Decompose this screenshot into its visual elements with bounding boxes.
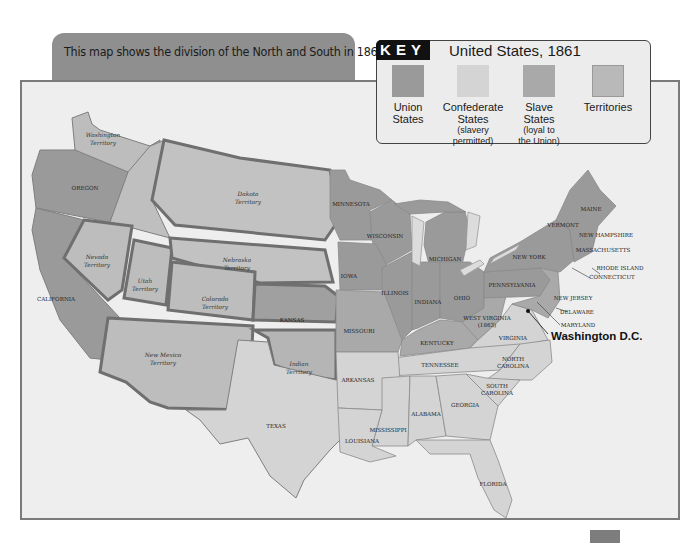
label-north-carolina: NORTH bbox=[502, 356, 524, 362]
label-louisiana: LOUISIANA bbox=[345, 438, 380, 444]
label-colorado-territory: Colorado bbox=[202, 296, 229, 302]
label-massachusetts: MASSACHUSETTS bbox=[576, 247, 631, 253]
label-new-hampshire: NEW HAMPSHIRE bbox=[579, 232, 633, 238]
label-michigan: MICHIGAN bbox=[429, 256, 462, 262]
svg-text:Territory: Territory bbox=[235, 199, 262, 206]
svg-text:Territory: Territory bbox=[224, 265, 251, 272]
key-item-slave-loyal: Slave States (loyal to the Union) bbox=[511, 65, 567, 147]
map-key: KEY United States, 1861 Union States Con… bbox=[376, 40, 651, 144]
svg-text:Territory: Territory bbox=[286, 369, 313, 376]
label-texas: TEXAS bbox=[266, 423, 286, 429]
label-tennessee: TENNESSEE bbox=[421, 362, 458, 368]
label-rhode-island: RHODE ISLAND bbox=[596, 265, 644, 271]
label-washington-territory: Washington bbox=[86, 132, 121, 139]
label-nebraska-territory: Nebraska bbox=[222, 257, 252, 263]
key-item-confederate: Confederate States (slavery permitted) bbox=[437, 65, 509, 147]
label-maryland: MARYLAND bbox=[561, 322, 596, 328]
label-utah-territory: Utah bbox=[138, 278, 153, 284]
union-swatch bbox=[392, 65, 424, 97]
great-lakes bbox=[412, 216, 424, 266]
label-wisconsin: WISCONSIN bbox=[367, 233, 404, 239]
label-new-york: NEW YORK bbox=[512, 254, 546, 260]
label-florida: FLORIDA bbox=[479, 481, 507, 487]
label-dakota-territory: Dakota bbox=[237, 191, 259, 197]
key-item-territories: Territories bbox=[573, 65, 643, 113]
label-washington-dc: Washington D.C. bbox=[551, 330, 643, 342]
label-kansas: KANSAS bbox=[280, 317, 305, 323]
label-iowa: IOWA bbox=[341, 273, 358, 279]
svg-text:Territory: Territory bbox=[132, 286, 159, 293]
confederate-swatch bbox=[457, 65, 489, 97]
svg-text:Territory: Territory bbox=[202, 304, 229, 311]
svg-text:Territory: Territory bbox=[90, 140, 117, 147]
label-illinois: ILLINOIS bbox=[381, 290, 409, 296]
label-mississippi: MISSISSIPPI bbox=[369, 427, 406, 433]
label-connecticut: CONNECTICUT bbox=[589, 274, 635, 280]
svg-text:CAROLINA: CAROLINA bbox=[481, 390, 514, 396]
svg-text:(1863): (1863) bbox=[478, 322, 497, 328]
label-delaware: DELAWARE bbox=[560, 309, 594, 315]
territories-swatch bbox=[592, 65, 624, 97]
west-region bbox=[32, 112, 350, 498]
svg-text:Territory: Territory bbox=[150, 360, 177, 367]
label-virginia: VIRGINIA bbox=[498, 335, 528, 341]
dakota-territory bbox=[152, 140, 340, 240]
slave-loyal-swatch bbox=[523, 65, 555, 97]
label-oregon: OREGON bbox=[72, 185, 99, 191]
label-vermont: VERMONT bbox=[546, 222, 579, 228]
label-california: CALIFORNIA bbox=[37, 296, 76, 302]
label-missouri: MISSOURI bbox=[343, 328, 374, 334]
label-kentucky: KENTUCKY bbox=[420, 340, 454, 346]
label-new-jersey: NEW JERSEY bbox=[554, 295, 593, 302]
label-alabama: ALABAMA bbox=[410, 411, 442, 417]
label-nevada-territory: Nevada bbox=[85, 254, 109, 260]
florida-state bbox=[416, 440, 512, 518]
key-item-union: Union States bbox=[384, 65, 432, 125]
label-west-virginia: WEST VIRGINIA bbox=[463, 315, 511, 321]
key-title: United States, 1861 bbox=[449, 42, 581, 59]
label-maine: MAINE bbox=[581, 206, 602, 212]
label-georgia: GEORGIA bbox=[451, 402, 480, 408]
label-minnesota: MINNESOTA bbox=[332, 201, 371, 207]
label-indian-territory: Indian bbox=[289, 361, 309, 367]
page-tab bbox=[590, 530, 620, 543]
label-ohio: OHIO bbox=[454, 295, 471, 301]
label-new-mexico-territory: New Mexico bbox=[144, 352, 182, 358]
label-arkansas: ARKANSAS bbox=[341, 377, 375, 383]
label-south-carolina: SOUTH bbox=[486, 383, 508, 389]
key-badge: KEY bbox=[376, 40, 430, 60]
utah-territory bbox=[124, 240, 172, 305]
label-pennsylvania: PENNSYLVANIA bbox=[488, 282, 536, 288]
svg-text:Territory: Territory bbox=[84, 262, 111, 269]
svg-text:CAROLINA: CAROLINA bbox=[497, 363, 530, 369]
label-indiana: INDIANA bbox=[415, 299, 443, 305]
indiana-state bbox=[412, 262, 440, 330]
